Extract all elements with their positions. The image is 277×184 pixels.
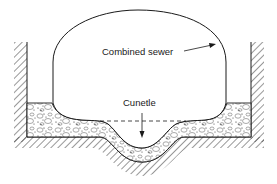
combined-sewer-label: Combined sewer [102,47,173,57]
sewer-cross-section-diagram [0,0,277,184]
cunette-label: Cunetle [123,98,156,108]
right-trench-wall [251,42,264,142]
left-trench-wall [14,42,27,142]
